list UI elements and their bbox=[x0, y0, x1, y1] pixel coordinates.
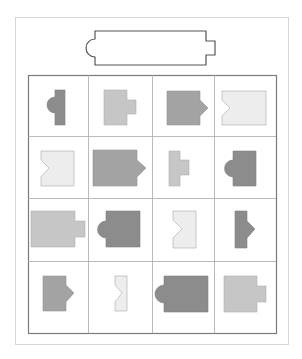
target-shape[interactable] bbox=[86, 31, 215, 65]
puzzle-canvas bbox=[0, 0, 302, 359]
